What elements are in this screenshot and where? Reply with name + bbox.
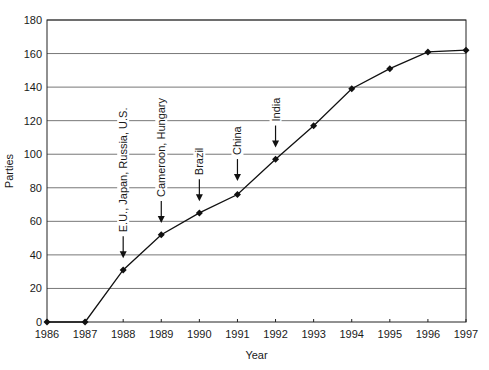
annotation-label: E.U., Japan, Russia, U.S. [117, 108, 129, 233]
plot-frame [47, 20, 466, 322]
x-tick-label: 1996 [416, 328, 440, 340]
y-tick-label: 140 [24, 81, 42, 93]
data-point-marker [44, 319, 51, 326]
y-axis-label: Parties [3, 153, 15, 188]
annotation-india: India [270, 96, 282, 148]
x-tick-label: 1993 [301, 328, 325, 340]
y-tick-label: 40 [30, 249, 42, 261]
y-tick-label: 160 [24, 48, 42, 60]
y-tick-label: 80 [30, 182, 42, 194]
annotation-label: Cameroon, Hungary [155, 97, 167, 197]
annotation-label: Brazil [193, 148, 205, 176]
y-tick-label: 180 [24, 14, 42, 26]
data-series [44, 47, 470, 326]
annotation-label: China [231, 125, 243, 155]
down-arrow-icon [158, 216, 165, 223]
y-tick-label: 20 [30, 282, 42, 294]
y-tick-label: 100 [24, 148, 42, 160]
down-arrow-icon [234, 174, 241, 181]
down-arrow-icon [272, 141, 279, 148]
data-point-marker [196, 209, 203, 216]
x-axis-label: Year [245, 349, 268, 361]
annotation-e-u-japan-russia-u-s: E.U., Japan, Russia, U.S. [117, 107, 129, 259]
annotation-label: India [270, 97, 282, 122]
data-point-marker [424, 48, 431, 55]
x-tick-label: 1992 [263, 328, 287, 340]
y-tick-label: 120 [24, 115, 42, 127]
data-point-marker [463, 47, 470, 54]
annotation-brazil: Brazil [193, 147, 205, 202]
down-arrow-icon [196, 194, 203, 201]
x-tick-label: 1995 [378, 328, 402, 340]
y-tick-label: 60 [30, 215, 42, 227]
x-tick-label: 1990 [187, 328, 211, 340]
annotation-china: China [231, 124, 243, 181]
x-tick-label: 1997 [454, 328, 478, 340]
series-line [47, 50, 466, 322]
x-tick-label: 1986 [35, 328, 59, 340]
data-point-marker [386, 65, 393, 72]
x-tick-label: 1991 [225, 328, 249, 340]
x-tick-label: 1994 [339, 328, 363, 340]
y-axis-ticks: 020406080100120140160180 [24, 14, 42, 328]
x-tick-label: 1989 [149, 328, 173, 340]
gridlines [47, 20, 466, 288]
y-tick-label: 0 [36, 316, 42, 328]
line-chart: 020406080100120140160180 198619871988198… [0, 0, 489, 370]
x-tick-label: 1987 [73, 328, 97, 340]
annotation-cameroon-hungary: Cameroon, Hungary [155, 96, 167, 223]
x-tick-label: 1988 [111, 328, 135, 340]
